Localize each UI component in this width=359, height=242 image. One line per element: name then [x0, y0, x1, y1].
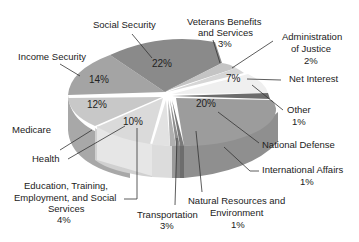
label-education-3: Services: [48, 203, 84, 214]
label-other: Other: [287, 104, 311, 115]
pct-social-security: 22%: [152, 58, 172, 69]
label-justice-1: Administration: [282, 31, 342, 42]
label-transportation-pct: 3%: [160, 220, 174, 231]
label-national-defense: National Defense: [262, 139, 335, 150]
pct-health: 10%: [123, 116, 143, 127]
label-veterans-pct: 3%: [218, 38, 232, 49]
pct-net-interest: 7%: [226, 73, 240, 84]
label-veterans-2: and Services: [198, 27, 253, 38]
label-natural-2: Environment: [210, 207, 263, 218]
label-education-2: Employment, and Social: [14, 192, 116, 203]
label-justice-pct: 2%: [304, 55, 318, 66]
label-veterans-1: Veterans Benefits: [187, 16, 261, 27]
label-education-pct: 4%: [57, 214, 71, 225]
label-natural-pct: 1%: [231, 219, 245, 230]
label-health: Health: [32, 153, 59, 164]
label-transportation: Transportation: [137, 209, 198, 220]
pct-national-defense: 20%: [196, 98, 216, 109]
label-income-security: Income Security: [18, 51, 86, 62]
label-net-interest: Net Interest: [289, 73, 338, 84]
label-social-security: Social Security: [93, 19, 156, 30]
pct-medicare: 12%: [87, 99, 107, 110]
label-international-pct: 1%: [300, 176, 314, 187]
label-international: International Affairs: [262, 164, 343, 175]
label-medicare: Medicare: [12, 124, 51, 135]
label-justice-2: of Justice: [291, 43, 331, 54]
label-education-1: Education, Training,: [24, 180, 108, 191]
pct-income-security: 14%: [89, 74, 109, 85]
label-other-pct: 1%: [292, 116, 306, 127]
label-natural-1: Natural Resources and: [188, 195, 285, 206]
